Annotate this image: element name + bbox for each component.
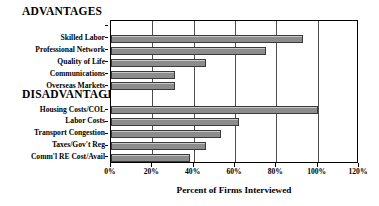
- x-axis-tick-label: 20%: [144, 168, 159, 176]
- category-label-row: Skilled Labor: [0, 32, 108, 44]
- category-label-row: ADVANTAGES: [0, 20, 108, 32]
- bar: [111, 106, 318, 114]
- category-label-row: Comm'l RE Cost/Avail: [0, 151, 108, 163]
- category-label: Quality of Life: [57, 58, 105, 66]
- category-label-row: Labor Costs: [0, 115, 108, 127]
- x-axis-tick-label: 100%: [307, 168, 326, 176]
- bar: [111, 71, 175, 79]
- bar: [111, 47, 266, 55]
- category-tick: [105, 61, 108, 62]
- x-axis-tick-label: 60%: [226, 168, 241, 176]
- bar-rows: [111, 21, 357, 162]
- category-label: Comm'l RE Cost/Avail: [31, 153, 105, 161]
- bar: [111, 35, 303, 43]
- x-axis-tick-label: 0%: [104, 168, 115, 176]
- category-label-row: Transport Congestion: [0, 127, 108, 139]
- bar-row: [111, 21, 357, 33]
- category-label: Labor Costs: [65, 117, 105, 125]
- category-label-row: Quality of Life: [0, 56, 108, 68]
- bar-row: [111, 45, 357, 57]
- category-label: Taxes/Gov't Reg: [52, 141, 105, 149]
- bar: [111, 142, 206, 150]
- bar: [111, 130, 221, 138]
- group-heading-advantages: ADVANTAGES: [22, 5, 102, 17]
- bar-row: [111, 140, 357, 152]
- category-tick: [105, 109, 108, 110]
- category-label: Transport Congestion: [34, 129, 105, 137]
- bar: [111, 59, 206, 67]
- bar-row: [111, 33, 357, 45]
- bar-row: [111, 57, 357, 69]
- x-axis-tick-labels: 0%20%40%60%80%100%120%: [0, 168, 379, 180]
- category-axis-labels: ADVANTAGESSkilled LaborProfessional Netw…: [0, 20, 108, 163]
- bar-chart: ADVANTAGES DISADVANTAGES ADVANTAGESSkill…: [0, 0, 379, 206]
- category-label-row: Overseas Markets: [0, 80, 108, 92]
- category-label-row: DISADVANTAGES: [0, 91, 108, 103]
- category-label: Professional Network: [35, 46, 105, 54]
- x-axis-title: Percent of Firms Interviewed: [110, 185, 358, 195]
- bar-row: [111, 104, 357, 116]
- plot-area: [110, 20, 358, 163]
- bar: [111, 154, 190, 162]
- x-axis-tick-label: 80%: [268, 168, 283, 176]
- category-label-row: Housing Costs/COL: [0, 103, 108, 115]
- x-axis-tick-label: 120%: [349, 168, 368, 176]
- category-label-row: Professional Network: [0, 44, 108, 56]
- bar-row: [111, 92, 357, 104]
- category-tick: [105, 25, 108, 26]
- category-tick: [105, 85, 108, 86]
- bar-row: [111, 81, 357, 93]
- category-tick: [105, 37, 108, 38]
- category-label: Skilled Labor: [60, 34, 105, 42]
- category-label-row: Taxes/Gov't Reg: [0, 139, 108, 151]
- bar-row: [111, 128, 357, 140]
- category-tick: [105, 73, 108, 74]
- category-tick: [105, 121, 108, 122]
- category-tick: [105, 145, 108, 146]
- category-tick: [105, 97, 108, 98]
- category-tick: [105, 156, 108, 157]
- x-axis-tick-label: 40%: [185, 168, 200, 176]
- category-tick: [105, 49, 108, 50]
- category-label: Communications: [50, 70, 105, 78]
- category-label: Overseas Markets: [46, 82, 105, 90]
- category-label-row: Communications: [0, 68, 108, 80]
- category-label: Housing Costs/COL: [40, 106, 105, 114]
- bar: [111, 82, 175, 90]
- bar-row: [111, 69, 357, 81]
- category-tick: [105, 133, 108, 134]
- bar: [111, 118, 239, 126]
- bar-row: [111, 116, 357, 128]
